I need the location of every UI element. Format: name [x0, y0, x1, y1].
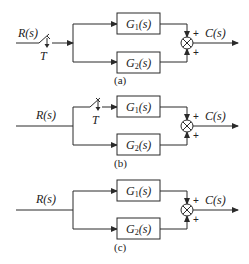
- panel-caption: (b): [114, 157, 127, 170]
- sampler-switch: [90, 98, 101, 111]
- panel-caption: (c): [114, 241, 127, 254]
- sum-sign-upper: +: [193, 111, 199, 122]
- switch-label: T: [40, 49, 48, 63]
- block-diagram: R(s) T G1(s) G2(s) + + C(s) (a): [0, 0, 249, 264]
- g1-output-wire: [160, 24, 187, 37]
- svg-text:G2(s): G2(s): [126, 222, 151, 237]
- sum-sign-upper: +: [193, 195, 199, 206]
- svg-text:G2(s): G2(s): [126, 138, 151, 153]
- block-g2: G2(s): [117, 134, 160, 155]
- svg-text:G1(s): G1(s): [126, 184, 151, 199]
- summing-junction: [181, 37, 193, 49]
- g1-output-wire: [160, 107, 187, 120]
- svg-text:G2(s): G2(s): [126, 56, 151, 71]
- output-label: C(s): [205, 26, 226, 40]
- panel-c: R(s) G1(s) G2(s) + + C(s) (c): [16, 180, 238, 254]
- block-g1: G1(s): [117, 13, 160, 34]
- panel-b: R(s) T G1(s) G2(s) + + C(s): [16, 96, 238, 170]
- block-g1: G1(s): [117, 180, 160, 201]
- summing-junction: [181, 120, 193, 132]
- g2-output-wire: [160, 216, 187, 229]
- g2-output-wire: [160, 49, 187, 62]
- output-label: C(s): [205, 193, 226, 207]
- g1-output-wire: [160, 191, 187, 204]
- sum-sign-upper: +: [193, 28, 199, 39]
- sum-sign-lower: +: [193, 214, 199, 225]
- summing-junction: [181, 204, 193, 216]
- switch-label: T: [92, 113, 100, 127]
- input-label: R(s): [35, 192, 56, 206]
- input-label: R(s): [35, 108, 56, 122]
- sum-sign-lower: +: [193, 130, 199, 141]
- panel-a: R(s) T G1(s) G2(s) + + C(s) (a): [16, 13, 238, 87]
- input-label: R(s): [17, 26, 38, 40]
- block-g1: G1(s): [117, 96, 160, 117]
- svg-text:G1(s): G1(s): [126, 100, 151, 115]
- svg-text:G1(s): G1(s): [126, 17, 151, 32]
- block-g2: G2(s): [117, 218, 160, 239]
- sum-sign-lower: +: [193, 47, 199, 58]
- output-label: C(s): [205, 109, 226, 123]
- panel-caption: (a): [114, 74, 127, 87]
- block-g2: G2(s): [117, 52, 160, 73]
- sampler-switch: [39, 34, 50, 48]
- g2-output-wire: [160, 132, 187, 145]
